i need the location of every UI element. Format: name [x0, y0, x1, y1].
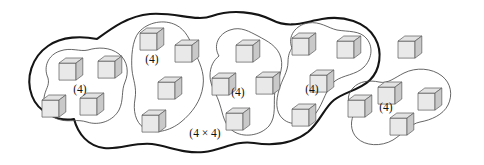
lone-cube: [398, 36, 422, 58]
cube-front-face: [142, 115, 159, 132]
cube-front-face: [390, 118, 407, 135]
cube-2-3: [158, 77, 182, 99]
cube-3-1: [236, 40, 260, 62]
cube-front-face: [98, 61, 115, 78]
group-count-label-1: (4): [73, 83, 87, 96]
cube-front-face: [140, 33, 157, 50]
cube-2-2: [175, 40, 199, 62]
cube-4-2: [337, 36, 361, 58]
cube-front-face: [175, 45, 192, 62]
cube-1-4: [80, 93, 104, 115]
diagram-canvas: (4)(4)(4)(4)(4)(4 × 4): [0, 0, 484, 165]
group-count-label-4: (4): [305, 83, 319, 96]
cube-4-4: [292, 104, 316, 126]
cube-front-face: [80, 98, 97, 115]
cube-2-1: [140, 28, 164, 50]
cube-front-face: [337, 41, 354, 58]
cube-front-face: [398, 41, 415, 58]
cube-front-face: [256, 77, 273, 94]
cube-3-3: [256, 72, 280, 94]
cube-2-4: [142, 110, 166, 132]
cube-1-2: [98, 56, 122, 78]
cube-3-4: [226, 108, 250, 130]
cube-front-face: [348, 100, 365, 117]
cube-4-1: [292, 33, 316, 55]
cube-front-face: [292, 38, 309, 55]
cube-5-3: [418, 88, 442, 110]
cube-front-face: [59, 63, 76, 80]
cube-front-face: [158, 82, 175, 99]
cube-grouping-diagram: (4)(4)(4)(4)(4)(4 × 4): [0, 0, 484, 165]
cube-front-face: [418, 93, 435, 110]
group-count-label-5: (4): [379, 101, 393, 114]
cube-5-1: [348, 95, 372, 117]
group-count-label-3: (4): [231, 86, 245, 99]
cube-1-3: [42, 95, 66, 117]
cube-1-1: [59, 58, 83, 80]
cube-front-face: [226, 113, 243, 130]
cube-front-face: [292, 109, 309, 126]
cube-5-4: [390, 113, 414, 135]
group-count-label-2: (4): [145, 53, 159, 66]
cube-front-face: [212, 78, 229, 95]
cube-front-face: [236, 45, 253, 62]
outer-region-total-label: (4 × 4): [189, 127, 221, 140]
cube-front-face: [42, 100, 59, 117]
